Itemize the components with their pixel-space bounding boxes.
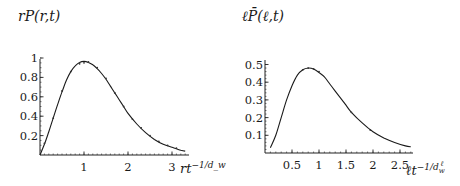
curve-line: [270, 68, 410, 148]
x-tick-label: 3: [168, 160, 175, 174]
y-tick-label: 0.2: [245, 111, 263, 125]
right-chart-panel: ℓP̄(ℓ,t) 0.511.522.50.10.20.30.40.5 ℓt−1…: [230, 0, 460, 186]
y-tick-label: 0.5: [245, 58, 263, 72]
data-point: [105, 77, 107, 79]
data-point: [149, 135, 151, 137]
y-tick-label: 0.3: [245, 93, 263, 107]
data-point: [167, 144, 169, 146]
data-point: [61, 90, 63, 92]
y-tick-label: 0.1: [245, 128, 263, 142]
data-point: [132, 118, 134, 120]
data-point: [88, 61, 90, 63]
right-chart-x-label: ℓt−1/dwℓ: [406, 160, 448, 179]
data-point: [96, 67, 98, 69]
x-tick-label: 1.5: [337, 158, 355, 172]
x-tick-label: 1: [315, 158, 322, 172]
y-tick-label: 0.2: [20, 129, 38, 143]
data-point: [83, 62, 85, 64]
x-tick-label: 0.5: [283, 158, 301, 172]
x-tick-label: 1: [80, 160, 87, 174]
data-point: [140, 127, 142, 129]
y-tick-label: 0.4: [20, 109, 38, 123]
y-tick-label: 0.4: [245, 75, 263, 89]
x-tick-label: 2: [124, 160, 131, 174]
left-chart-panel: rP(r,t) 1230.20.40.60.81 rt−1/d_w: [0, 0, 230, 186]
left-x-label-base: rt: [180, 161, 191, 176]
data-point: [369, 129, 371, 131]
y-tick-label: 0.8: [20, 70, 38, 84]
data-point: [44, 142, 46, 144]
data-point: [302, 69, 304, 71]
y-tick-label: 1: [31, 51, 38, 65]
data-point: [318, 71, 320, 73]
data-point: [313, 68, 315, 70]
right-chart-plot: 0.511.522.50.10.20.30.40.5: [230, 0, 460, 186]
data-point: [52, 117, 54, 119]
data-point: [79, 63, 81, 65]
right-x-label-exp-sup: ℓ: [441, 160, 444, 168]
left-chart-plot: 1230.20.40.60.81: [0, 0, 230, 186]
data-point: [123, 106, 125, 108]
data-point: [114, 92, 116, 94]
x-tick-label: 2: [369, 158, 376, 172]
right-x-label-exponent: −1/d: [417, 162, 439, 172]
right-x-label-base: ℓt: [406, 163, 417, 178]
data-point: [176, 147, 178, 149]
left-chart-x-label: rt−1/d_w: [180, 160, 226, 176]
left-x-label-exponent: −1/d_w: [191, 160, 225, 170]
data-point: [158, 141, 160, 143]
y-tick-label: 0.6: [20, 90, 38, 104]
data-point: [70, 71, 72, 73]
data-point: [307, 67, 309, 69]
data-point: [351, 111, 353, 113]
curve-line: [40, 61, 185, 155]
